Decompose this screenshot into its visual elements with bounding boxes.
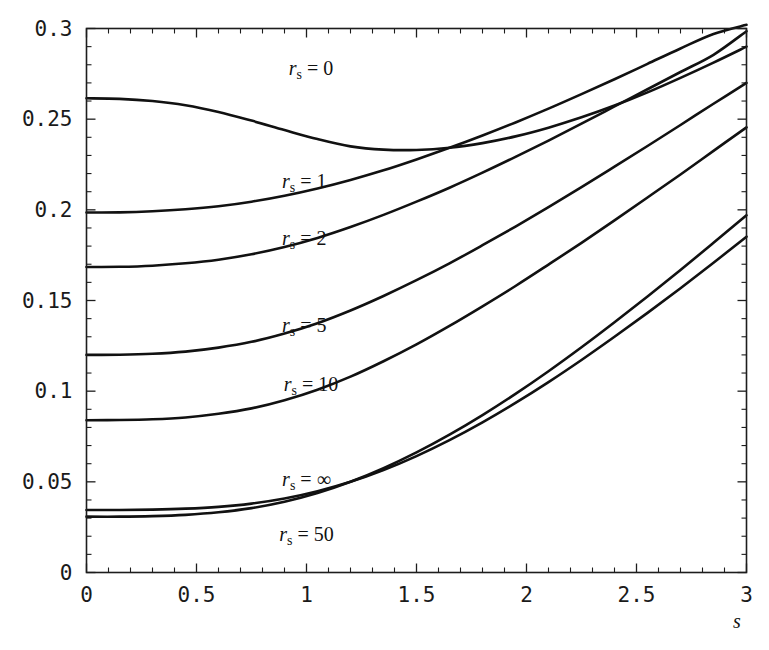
x-axis-label: s bbox=[733, 610, 741, 632]
data-curve-1 bbox=[87, 25, 747, 213]
curve-label-subscript: s bbox=[291, 383, 296, 398]
curve-group bbox=[87, 25, 747, 517]
x-tick-label: 2.5 bbox=[618, 583, 656, 607]
curve-label-symbol: r bbox=[282, 468, 290, 490]
x-tick-label: 3 bbox=[740, 583, 753, 607]
y-tick-label: 0.1 bbox=[35, 379, 73, 403]
curve-label-value: 5 bbox=[317, 314, 327, 336]
curve-label-symbol: r bbox=[289, 57, 297, 79]
curve-label-subscript: s bbox=[296, 67, 301, 82]
curve-label-6: rs=50 bbox=[279, 523, 334, 548]
curve-label-equals: = bbox=[300, 170, 311, 192]
curve-label-symbol: r bbox=[282, 227, 290, 249]
data-curve-6 bbox=[87, 215, 747, 516]
curve-label-subscript: s bbox=[287, 533, 292, 548]
figure-container: 00.050.10.150.20.250.3 00.511.522.53 rs=… bbox=[0, 0, 769, 650]
data-curve-0 bbox=[87, 47, 747, 151]
curve-label-value: 50 bbox=[314, 523, 334, 545]
x-tick-label: 0.5 bbox=[178, 583, 216, 607]
curve-label-4: rs=10 bbox=[284, 373, 339, 398]
curve-label-1: rs=1 bbox=[282, 170, 327, 195]
y-tick-label: 0.05 bbox=[22, 470, 73, 494]
curve-label-5: rs=∞ bbox=[282, 468, 331, 493]
x-axis-tick-labels: 00.511.522.53 bbox=[80, 583, 753, 607]
line-chart: 00.050.10.150.20.250.3 00.511.522.53 rs=… bbox=[0, 0, 769, 650]
y-axis-tick-labels: 00.050.10.150.20.250.3 bbox=[22, 17, 73, 585]
curve-label-equals: = bbox=[297, 523, 308, 545]
y-axis-ticks bbox=[87, 29, 747, 573]
x-tick-label: 1 bbox=[300, 583, 313, 607]
curve-label-subscript: s bbox=[290, 237, 295, 252]
curve-label-symbol: r bbox=[282, 314, 290, 336]
curve-label-equals: = bbox=[302, 373, 313, 395]
y-tick-label: 0.3 bbox=[35, 17, 73, 41]
curve-label-subscript: s bbox=[290, 180, 295, 195]
curve-label-value: 1 bbox=[317, 170, 327, 192]
x-axis-ticks bbox=[87, 29, 747, 573]
curve-label-2: rs=2 bbox=[282, 227, 327, 252]
x-tick-label: 1.5 bbox=[398, 583, 436, 607]
curve-label-subscript: s bbox=[290, 478, 295, 493]
curve-label-value: ∞ bbox=[317, 468, 331, 490]
curve-label-symbol: r bbox=[284, 373, 292, 395]
curve-label-subscript: s bbox=[290, 324, 295, 339]
curve-label-equals: = bbox=[300, 314, 311, 336]
curve-label-0: rs=0 bbox=[289, 57, 334, 82]
curve-label-value: 2 bbox=[317, 227, 327, 249]
curve-label-value: 10 bbox=[318, 373, 338, 395]
data-curve-5 bbox=[87, 237, 747, 510]
x-tick-label: 0 bbox=[80, 583, 93, 607]
data-curve-4 bbox=[87, 127, 747, 420]
curve-label-value: 0 bbox=[323, 57, 333, 79]
curve-label-equals: = bbox=[300, 468, 311, 490]
y-tick-label: 0.25 bbox=[22, 107, 73, 131]
y-tick-label: 0.15 bbox=[22, 289, 73, 313]
curve-label-symbol: r bbox=[279, 523, 287, 545]
x-tick-label: 2 bbox=[520, 583, 533, 607]
y-tick-label: 0.2 bbox=[35, 198, 73, 222]
y-tick-label: 0 bbox=[60, 561, 73, 585]
curve-label-equals: = bbox=[300, 227, 311, 249]
curve-label-3: rs=5 bbox=[282, 314, 327, 339]
curve-label-equals: = bbox=[307, 57, 318, 79]
plot-frame bbox=[87, 29, 747, 573]
curve-label-symbol: r bbox=[282, 170, 290, 192]
